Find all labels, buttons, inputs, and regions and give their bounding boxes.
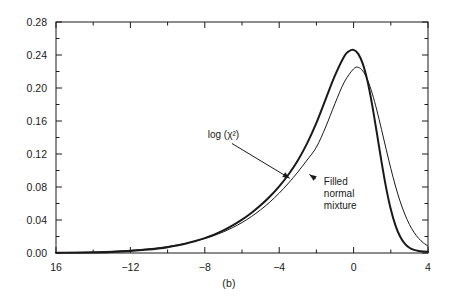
annotation-label-log-chi-squared: log (χ²) xyxy=(208,129,239,140)
annotation-line: normal xyxy=(324,188,355,199)
y-tick-label: 0.00 xyxy=(27,247,48,259)
annotation-group: log (χ²)Fillednormalmixture xyxy=(208,129,357,210)
y-tick-label: 0.08 xyxy=(27,181,48,193)
x-tick-label: 0 xyxy=(351,261,357,273)
y-tick-label: 0.20 xyxy=(27,82,48,94)
figure-caption: (b) xyxy=(0,277,458,289)
annotation-line: mixture xyxy=(324,200,357,211)
axes-frame xyxy=(56,22,428,253)
x-tick-label: −4 xyxy=(273,261,285,273)
curve-log- xyxy=(56,67,428,253)
annotation-line: Filled xyxy=(324,176,348,187)
y-tick-label: 0.28 xyxy=(27,16,48,28)
annotation-arrowhead xyxy=(309,174,316,180)
x-tick-label: 16 xyxy=(50,261,62,273)
x-tick-label: −12 xyxy=(121,261,139,273)
density-plot: 16−12−8−4040.000.040.080.120.160.200.240… xyxy=(0,0,458,306)
data-series-group xyxy=(56,50,428,253)
annotation-label-filled-normal-mixture: Fillednormalmixture xyxy=(324,176,357,211)
y-tick-label: 0.16 xyxy=(27,115,48,127)
y-tick-label: 0.12 xyxy=(27,148,48,160)
x-tick-label: −8 xyxy=(199,261,211,273)
axis-tick-labels: 16−12−8−4040.000.040.080.120.160.200.240… xyxy=(27,16,432,273)
y-tick-label: 0.24 xyxy=(27,49,48,61)
annotation-leader-line xyxy=(232,143,290,178)
y-tick-label: 0.04 xyxy=(27,214,48,226)
axis-ticks xyxy=(56,22,428,253)
figure-panel: 16−12−8−4040.000.040.080.120.160.200.240… xyxy=(0,0,458,306)
plot-frame xyxy=(56,22,428,253)
x-tick-label: 4 xyxy=(425,261,431,273)
